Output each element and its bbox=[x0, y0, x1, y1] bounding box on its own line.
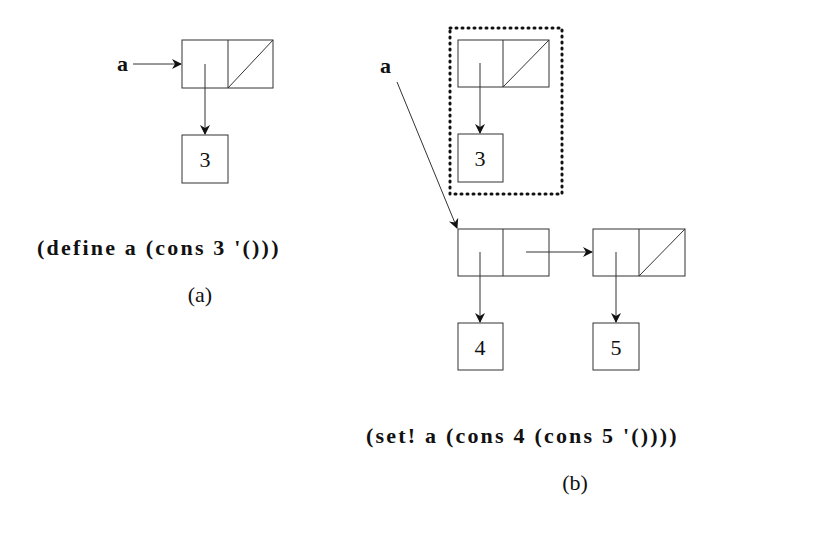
cons-cell-diagram: a 3 (define a (cons 3 '())) (a) a 3 bbox=[0, 0, 828, 536]
code-define: (define a (cons 3 '())) bbox=[37, 235, 281, 260]
value-5: 5 bbox=[611, 335, 622, 360]
old-cons-cell bbox=[458, 40, 549, 87]
variable-a-label: a bbox=[117, 51, 128, 76]
pointer-arrow bbox=[397, 82, 457, 228]
panel-a: a 3 (define a (cons 3 '())) (a) bbox=[37, 40, 281, 307]
variable-a-label: a bbox=[380, 53, 391, 78]
value-3: 3 bbox=[475, 146, 486, 171]
value-3: 3 bbox=[200, 147, 211, 172]
panel-b: a 3 4 5 (set! a (cons 4 (con bbox=[366, 28, 685, 495]
caption-b: (b) bbox=[562, 470, 588, 495]
cons-cell-2 bbox=[593, 229, 685, 276]
caption-a: (a) bbox=[188, 282, 212, 307]
value-4: 4 bbox=[475, 335, 486, 360]
cons-cell bbox=[182, 40, 273, 88]
code-set: (set! a (cons 4 (cons 5 '()))) bbox=[366, 423, 679, 448]
diagram-canvas: a 3 (define a (cons 3 '())) (a) a 3 bbox=[0, 0, 828, 536]
